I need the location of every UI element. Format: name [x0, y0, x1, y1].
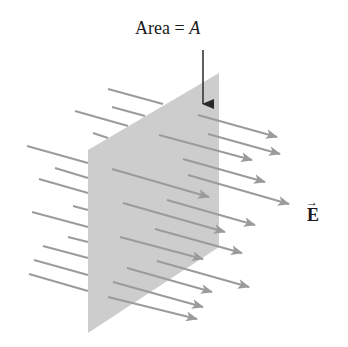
electric-flux-diagram: Area = A → E	[0, 0, 348, 347]
field-line-behind	[93, 133, 108, 138]
vector-arrow-icon: →	[306, 195, 318, 210]
field-line-behind	[39, 179, 88, 193]
field-line-behind	[68, 237, 88, 242]
field-line-behind	[29, 274, 88, 291]
area-variable: A	[189, 18, 200, 38]
area-label: Area = A	[135, 18, 200, 39]
field-line-behind	[75, 111, 128, 126]
field-line-behind	[55, 168, 88, 178]
field-line-behind	[43, 246, 88, 258]
field-line-behind	[73, 206, 88, 210]
electric-field-vector-label: → E	[307, 205, 319, 226]
field-line-behind	[34, 260, 88, 275]
diagram-canvas	[0, 0, 348, 347]
field-line-behind	[27, 146, 88, 163]
area-label-prefix: Area =	[135, 18, 189, 38]
field-line-behind	[32, 212, 88, 227]
field-line-behind	[112, 107, 145, 116]
field-line-behind	[108, 89, 163, 104]
